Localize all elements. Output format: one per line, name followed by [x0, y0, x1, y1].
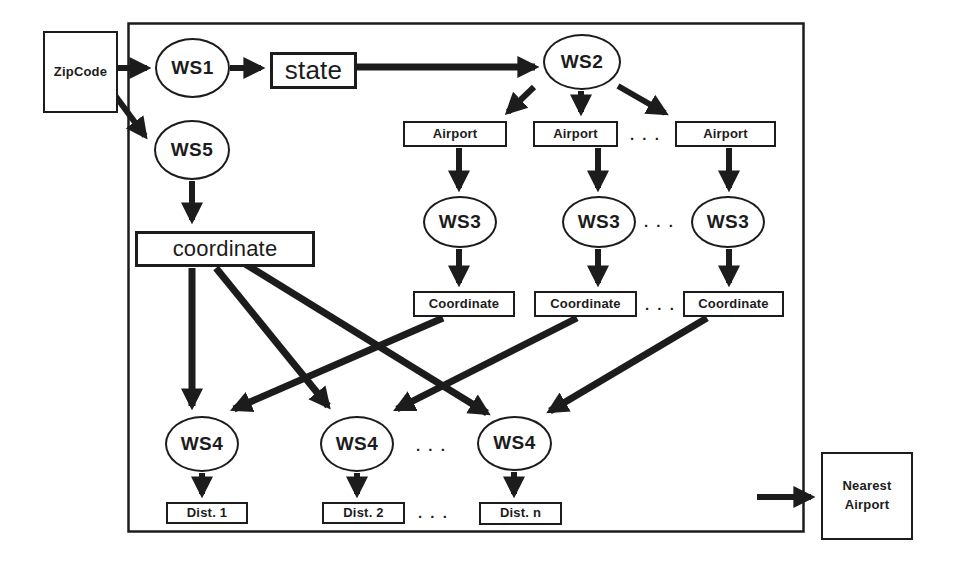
node-zipcode: ZipCode — [43, 31, 118, 113]
ellipsis-airports: . . . — [630, 126, 661, 143]
nearest-airport-line1: Nearest — [842, 477, 891, 496]
node-airport-n: Airport — [675, 121, 776, 147]
node-coordinate-1: Coordinate — [413, 291, 515, 317]
node-dist-2: Dist. 2 — [322, 502, 405, 524]
node-coordinate-2: Coordinate — [534, 291, 637, 317]
ellipsis-ws4: . . . — [416, 437, 447, 454]
workflow-diagram: ZipCode WS1 state WS2 WS5 Airport Airpor… — [0, 0, 953, 569]
nearest-airport-line2: Airport — [845, 496, 890, 515]
ellipsis-dist: . . . — [418, 504, 449, 521]
node-ws4-1: WS4 — [165, 416, 239, 472]
node-airport-2: Airport — [533, 121, 618, 147]
node-nearest-airport: Nearest Airport — [821, 452, 913, 540]
arrow-layer — [0, 0, 953, 569]
node-dist-n: Dist. n — [479, 502, 562, 525]
node-ws2: WS2 — [543, 34, 621, 90]
arrow-coordinate-n-to-ws4-n — [550, 318, 707, 411]
node-coordinate-n: Coordinate — [683, 291, 784, 317]
node-ws4-n: WS4 — [477, 416, 552, 471]
node-airport-1: Airport — [403, 121, 507, 147]
arrow-coordinate-to-ws4-2 — [216, 268, 328, 406]
ellipsis-ws3: . . . — [644, 213, 675, 230]
node-ws3-1: WS3 — [423, 196, 497, 248]
node-ws5: WS5 — [154, 120, 230, 180]
arrow-ws2-to-airport-1 — [508, 87, 534, 112]
arrow-coordinate-2-to-ws4-2 — [397, 318, 577, 409]
arrow-ws2-to-airport-n — [618, 86, 665, 113]
node-dist-1: Dist. 1 — [166, 502, 248, 524]
ellipsis-coordinates: . . . — [645, 296, 676, 313]
node-ws4-2: WS4 — [320, 416, 394, 472]
node-ws3-n: WS3 — [691, 196, 765, 248]
node-ws1: WS1 — [155, 38, 230, 98]
node-ws3-2: WS3 — [562, 196, 636, 248]
node-state: state — [270, 52, 357, 89]
node-coordinate-input: coordinate — [135, 231, 315, 267]
